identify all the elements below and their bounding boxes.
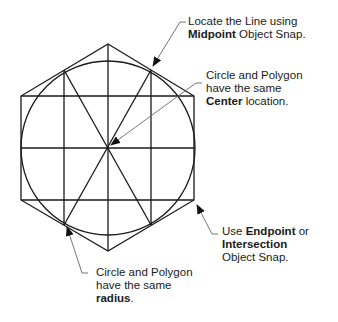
leader-radius (67, 227, 88, 273)
annotation-radius: Circle and Polygon have the same radius. (96, 266, 193, 305)
leader-midpoint (153, 22, 186, 66)
annotation-center: Circle and Polygon have the same Center … (206, 69, 303, 108)
annotation-endpoint: Use Endpoint or Intersection Object Snap… (222, 225, 309, 264)
annotation-midpoint: Locate the Line using Midpoint Object Sn… (188, 15, 306, 41)
leader-endpoint (197, 205, 218, 234)
